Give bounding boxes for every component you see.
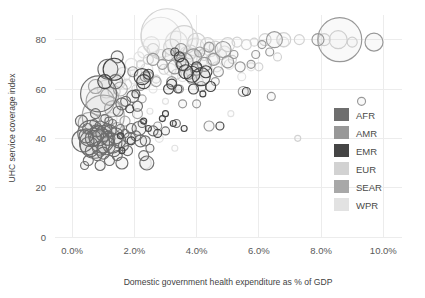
bubble-point [157, 59, 167, 69]
legend-label-wpr[interactable]: WPR [356, 200, 378, 211]
bubble-point [267, 92, 275, 100]
bubble-point [230, 50, 238, 58]
bubble-point [117, 133, 123, 139]
bubble-point [161, 127, 169, 135]
bubble-point [242, 87, 250, 95]
y-tick-label: 20 [35, 182, 46, 193]
bubble-point [119, 148, 125, 154]
bubble-point [137, 60, 145, 68]
bubble-point [266, 48, 274, 56]
bubble-point [174, 85, 182, 93]
bubble-point [127, 137, 135, 145]
bubble-point [164, 84, 174, 94]
bubble-point [179, 100, 187, 108]
bubble-point [295, 135, 301, 141]
chart-canvas: 0.0%2.0%4.0%6.0%8.0%10.0% 020406080 Dome… [0, 0, 425, 298]
bubble-point [143, 69, 153, 79]
bubble-point [204, 121, 214, 131]
x-tick-label: 2.0% [124, 245, 146, 256]
bubble-point [204, 42, 214, 52]
bubble-point [215, 42, 231, 58]
bubble-point [200, 91, 206, 97]
bubble-point [141, 118, 147, 124]
bubble-point [172, 145, 178, 151]
y-tick-label: 60 [35, 84, 46, 95]
bubble-point [147, 108, 153, 114]
x-axis-title: Domestic government health expenditure a… [124, 277, 333, 287]
bubble-point [235, 62, 245, 72]
bubble-point [238, 73, 246, 81]
bubble-point [195, 47, 205, 57]
bubble-point [274, 53, 282, 61]
y-axis-title: UHC service coverage index [7, 73, 17, 183]
legend-label-emr[interactable]: EMR [356, 146, 377, 157]
bubble-point [213, 67, 223, 77]
bubble-point [188, 84, 198, 94]
bubble-point [154, 129, 162, 137]
legend-label-eur[interactable]: EUR [356, 164, 376, 175]
bubble-point [83, 156, 93, 166]
bubble-point [116, 157, 128, 169]
bubble-point [228, 111, 234, 117]
bubble-point [126, 105, 134, 113]
y-tick-label: 40 [35, 133, 46, 144]
bubble-point [140, 156, 154, 170]
x-tick-label: 4.0% [186, 245, 208, 256]
x-tick-label: 6.0% [248, 245, 270, 256]
x-tick-label: 8.0% [310, 245, 332, 256]
bubble-point [252, 50, 260, 58]
bubble-point [193, 100, 201, 108]
legend-swatch-sear[interactable] [334, 180, 349, 193]
bubble-point [232, 37, 242, 47]
bubble-chart: 0.0%2.0%4.0%6.0%8.0%10.0% 020406080 Dome… [0, 0, 425, 298]
bubble-point [258, 41, 266, 49]
legend-swatch-afr[interactable] [334, 108, 349, 121]
bubble-point [250, 38, 258, 46]
bubble-point [162, 98, 168, 104]
y-tick-label: 80 [35, 34, 46, 45]
bubble-point [181, 125, 187, 131]
y-tick-label: 0 [41, 232, 46, 243]
bubble-point [95, 160, 105, 170]
bubble-point [255, 63, 263, 71]
bubble-point [247, 60, 255, 68]
bubble-point [294, 35, 304, 45]
bubble-point [159, 116, 165, 122]
bubble-point [200, 66, 212, 78]
bubble-point [358, 97, 366, 105]
bubble-point [206, 82, 216, 92]
bubble-point [105, 117, 113, 125]
legend-swatch-eur[interactable] [334, 162, 349, 175]
legend-swatch-amr[interactable] [334, 126, 349, 139]
legend-swatch-emr[interactable] [334, 144, 349, 157]
bubble-point [75, 115, 87, 127]
bubble-point [216, 122, 224, 130]
x-axis-tick-labels: 0.0%2.0%4.0%6.0%8.0%10.0% [61, 245, 397, 256]
bubble-point [103, 58, 125, 80]
bubble-point [365, 33, 383, 51]
legend-swatch-wpr[interactable] [334, 198, 349, 211]
x-tick-label: 0.0% [61, 245, 83, 256]
bubble-point [132, 90, 140, 98]
bubble-point [266, 32, 282, 48]
legend-label-amr[interactable]: AMR [356, 128, 377, 139]
y-axis-tick-labels: 020406080 [35, 34, 46, 242]
bubble-point [145, 125, 151, 131]
bubble-point [170, 121, 176, 127]
x-tick-label: 10.0% [370, 245, 397, 256]
legend-label-sear[interactable]: SEAR [356, 182, 382, 193]
bubble-point [146, 144, 154, 152]
legend-label-afr[interactable]: AFR [356, 110, 375, 121]
legend: AFRAMREMREURSEARWPR [334, 108, 382, 211]
bubble-point [151, 77, 161, 87]
bubble-point [318, 18, 362, 62]
